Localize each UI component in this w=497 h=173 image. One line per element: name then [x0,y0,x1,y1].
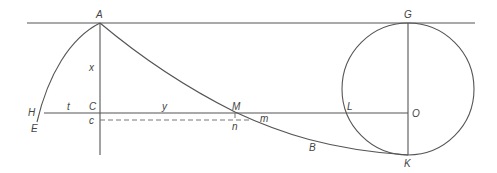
label-M: M [232,101,241,112]
label-E: E [31,123,38,134]
diagram-canvas: A G x H E t C c y M n m L O B K [0,0,497,173]
label-t: t [67,101,71,112]
label-K: K [404,158,412,169]
label-B: B [309,142,316,153]
label-c: c [89,115,94,126]
label-x: x [88,62,95,73]
label-C: C [89,101,97,112]
label-L: L [347,101,353,112]
label-G: G [404,9,412,20]
main-curve-AMBK [100,23,408,155]
label-A: A [95,9,103,20]
label-H: H [28,107,36,118]
label-y: y [161,101,168,112]
label-n: n [232,121,238,132]
label-O: O [412,108,420,119]
label-m: m [260,113,268,124]
